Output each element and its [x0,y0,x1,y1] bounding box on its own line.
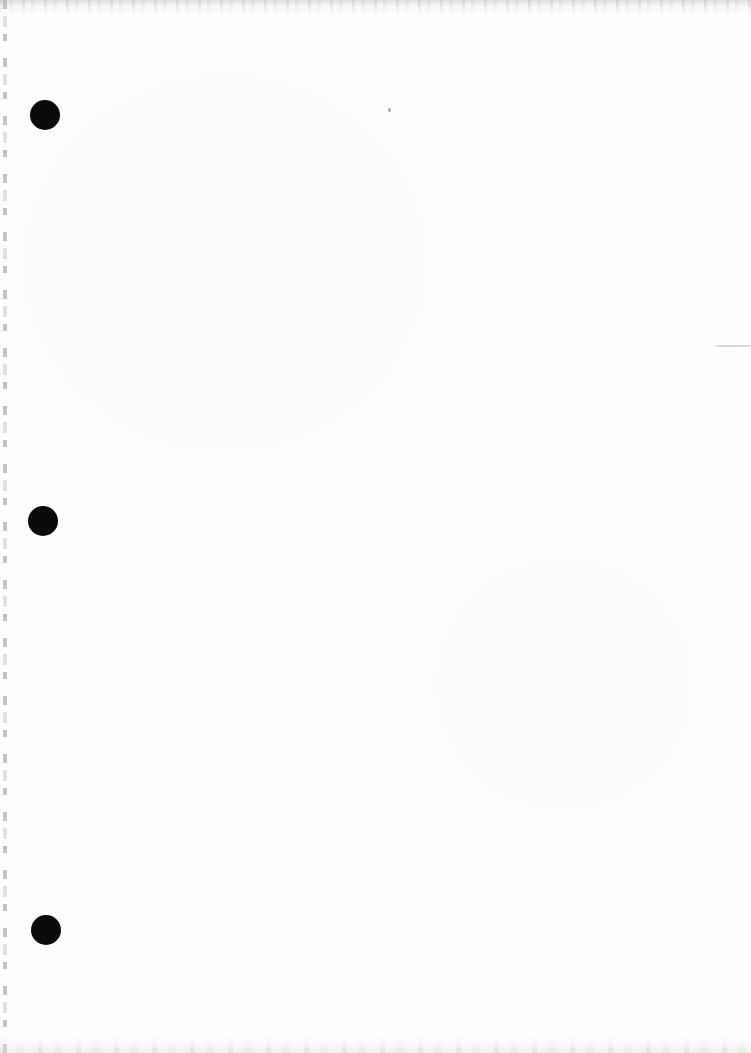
punch-hole-top [30,100,60,130]
paper-surface [0,0,751,1053]
scanned-page [0,0,751,1053]
top-edge-shadow-artifact [0,0,751,16]
punch-hole-bottom [31,915,61,945]
right-horizontal-rule-artifact [713,345,751,347]
bottom-edge-smudge-artifact [0,1035,751,1053]
stray-speck-artifact [388,108,391,112]
punch-hole-middle [28,506,58,536]
left-edge-scanline-artifact [3,0,7,1053]
